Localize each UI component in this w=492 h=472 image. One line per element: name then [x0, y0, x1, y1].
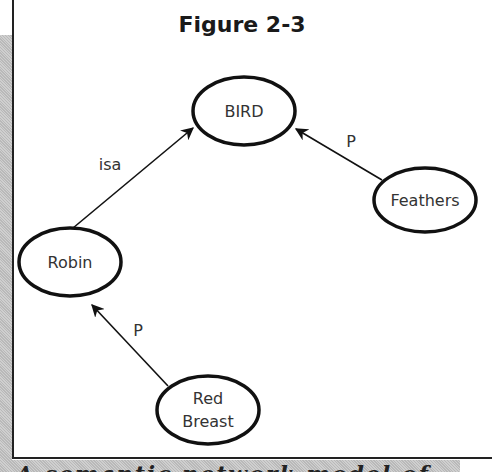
edge-label-isa: isa	[99, 155, 122, 174]
node-label-feathers: Feathers	[390, 191, 459, 210]
node-red-breast: Red Breast	[157, 376, 259, 444]
node-label-red: Red	[193, 389, 223, 408]
edge-label-p-feathers: P	[346, 132, 356, 151]
node-feathers: Feathers	[374, 168, 476, 232]
node-label-bird: BIRD	[224, 102, 263, 121]
edge-feathers-p-bird: P	[296, 129, 382, 180]
figure-caption-partial: A semantic network model of ...	[16, 463, 456, 472]
edge-robin-isa-bird: isa	[73, 128, 193, 228]
edge-label-p-redbreast: P	[133, 321, 143, 340]
node-robin: Robin	[19, 228, 121, 296]
node-bird: BIRD	[193, 77, 295, 145]
node-label-breast: Breast	[182, 412, 233, 431]
node-label-robin: Robin	[48, 253, 93, 272]
caption-text: A semantic network model of ...	[16, 463, 456, 472]
edge-redbreast-p-robin: P	[92, 305, 168, 386]
